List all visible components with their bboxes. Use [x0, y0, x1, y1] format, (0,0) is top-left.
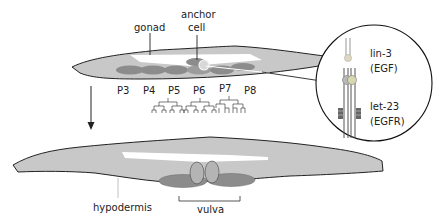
vpc-label: P6: [193, 85, 205, 96]
let-23-label: let-23: [370, 101, 399, 112]
egfr-label: (EGFR): [370, 116, 405, 127]
lineage-tree-p6: [184, 98, 216, 113]
vpc-labels: P3 P4 P5 P6 P7 P8: [117, 83, 256, 96]
vpc-label: P3: [117, 85, 129, 96]
anchor-cell-label-line1: anchor: [181, 9, 216, 20]
lineage-tree-p7: [216, 96, 245, 113]
vpc-label: P5: [168, 85, 180, 96]
gonad-label: gonad: [134, 22, 165, 33]
lineage-trees: [152, 96, 245, 113]
lineage-tree-p5: [152, 98, 184, 113]
lin-3-label: lin-3: [370, 48, 392, 59]
egf-label: (EGF): [370, 63, 398, 74]
vulva-inner-right: [205, 161, 219, 183]
signaling-inset: lin-3 (EGF) let-23 (EGFR): [316, 25, 432, 141]
vpc-label: P4: [143, 85, 155, 96]
development-arrow: [88, 86, 95, 130]
larva-worm: [72, 46, 335, 79]
vulva-inner-left: [190, 162, 204, 184]
vulva-bracket: [179, 196, 240, 201]
vpc-label: P8: [244, 85, 256, 96]
vpc-p3: [116, 66, 144, 75]
diagram-canvas: gonad anchor cell P3 P4 P5 P6 P7 P8: [0, 0, 435, 224]
hypodermis-label: hypodermis: [93, 202, 152, 213]
adult-worm: [13, 137, 383, 188]
vpc-p4: [140, 66, 166, 75]
vpc-p5: [164, 66, 188, 75]
anchor-cell-label-line2: cell: [188, 22, 205, 33]
vpc-label: P7: [219, 83, 231, 94]
anchor-cell-highlight: [199, 60, 209, 70]
vulva-label: vulva: [197, 204, 224, 215]
